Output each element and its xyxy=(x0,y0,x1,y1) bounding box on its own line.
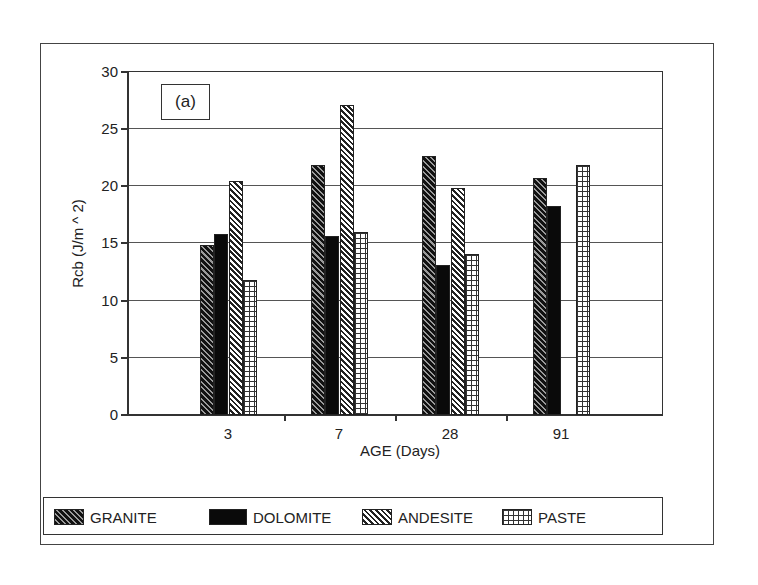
x-tick xyxy=(284,415,286,421)
bar-dolomite-28 xyxy=(436,265,450,415)
legend: GRANITE DOLOMITE ANDESITE PASTE xyxy=(43,497,663,535)
legend-label: GRANITE xyxy=(90,509,157,526)
bar-andesite-3 xyxy=(229,181,243,415)
x-tick-label: 7 xyxy=(319,425,359,442)
y-tick-label: 0 xyxy=(88,407,118,423)
x-tick-label: 3 xyxy=(208,425,248,442)
legend-item-andesite: ANDESITE xyxy=(362,507,473,527)
bar-paste-7 xyxy=(354,232,368,415)
x-tick xyxy=(506,415,508,421)
legend-label: PASTE xyxy=(538,509,586,526)
y-tick-label: 25 xyxy=(88,121,118,137)
x-tick-label: 91 xyxy=(541,425,581,442)
bar-paste-3 xyxy=(243,280,257,415)
bar-granite-7 xyxy=(311,165,325,415)
bar-andesite-28 xyxy=(451,188,465,415)
bar-granite-28 xyxy=(422,156,436,415)
x-tick xyxy=(395,415,397,421)
bar-granite-3 xyxy=(200,245,214,415)
legend-label: ANDESITE xyxy=(398,509,473,526)
andesite-swatch-icon xyxy=(362,509,392,525)
bar-dolomite-91 xyxy=(547,206,561,415)
bars-container xyxy=(127,71,663,415)
bar-dolomite-7 xyxy=(325,236,339,415)
legend-item-granite: GRANITE xyxy=(54,507,157,527)
y-tick-label: 10 xyxy=(88,293,118,309)
bar-andesite-7 xyxy=(340,105,354,415)
bar-dolomite-3 xyxy=(214,234,228,415)
y-tick-label: 15 xyxy=(88,235,118,251)
legend-label: DOLOMITE xyxy=(253,509,331,526)
legend-item-dolomite: DOLOMITE xyxy=(209,507,331,527)
granite-swatch-icon xyxy=(54,509,84,525)
x-tick-label: 28 xyxy=(430,425,470,442)
bar-paste-91 xyxy=(576,165,590,415)
y-axis-title: Rcb (J/m ^ 2) xyxy=(69,164,86,324)
dolomite-swatch-icon xyxy=(209,509,247,525)
bar-paste-28 xyxy=(465,254,479,415)
bar-granite-91 xyxy=(533,178,547,415)
y-tick-label: 20 xyxy=(88,178,118,194)
legend-item-paste: PASTE xyxy=(502,507,586,527)
x-axis-title: AGE (Days) xyxy=(300,442,500,459)
panel-label: (a) xyxy=(161,84,210,120)
y-tick-label: 30 xyxy=(88,64,118,80)
paste-swatch-icon xyxy=(502,509,532,525)
y-tick-label: 5 xyxy=(88,350,118,366)
